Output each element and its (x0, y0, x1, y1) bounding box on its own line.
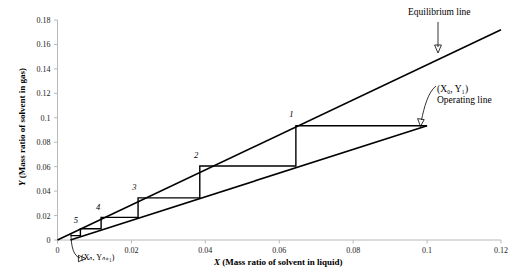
y-tick-label: 0.1 (41, 114, 51, 123)
y-tick-label: 0.06 (37, 163, 51, 172)
annotation-leaders (71, 22, 441, 262)
operating-line-label: Operating line (437, 95, 492, 105)
axes (58, 20, 502, 240)
y-tick-label: 0.08 (37, 138, 51, 147)
stage-number-3: 3 (131, 182, 136, 192)
x-axis-ticks: 00.020.040.060.080.10.12 (56, 240, 509, 255)
y-tick-label: 0.16 (37, 40, 51, 49)
y-axis-title-variable: Y (17, 181, 27, 187)
bottom-coordinate-annotation: (Xₙ, Yₙ₊₁) (81, 253, 114, 262)
stage-number-1: 1 (289, 109, 293, 119)
y-axis-ticks: 00.020.040.060.080.10.120.140.160.18 (37, 16, 58, 245)
x-tick-label: 0.1 (422, 246, 432, 255)
chart-svg: 00.020.040.060.080.10.120.140.160.18 00.… (0, 0, 515, 277)
operating-leader-line (422, 86, 437, 120)
x-tick-label: 0.06 (272, 246, 286, 255)
operating-line-annotation: (X₀, Y₁) Operating line (437, 84, 492, 106)
stage-number-labels: 12345 (74, 109, 294, 225)
x-tick-label: 0.04 (198, 246, 212, 255)
chart-figure: 00.020.040.060.080.10.120.140.160.18 00.… (0, 0, 515, 277)
equilibrium-line-annotation: Equilibrium line (408, 7, 471, 18)
top-coordinate-label: (X₀, Y₁) (437, 84, 492, 95)
y-axis-title-text: (Mass ratio of solvent in gas) (17, 68, 27, 178)
y-tick-label: 0.12 (37, 89, 51, 98)
x-axis-title-text: (Mass ratio of solvent in liquid) (222, 257, 342, 267)
stage-number-4: 4 (96, 202, 101, 212)
y-tick-label: 0 (47, 236, 51, 245)
y-axis-title: Y (Mass ratio of solvent in gas) (17, 47, 27, 207)
y-tick-label: 0.02 (37, 212, 51, 221)
y-tick-label: 0.14 (37, 65, 51, 74)
y-tick-label: 0.04 (37, 187, 51, 196)
chart-series (58, 30, 502, 240)
x-tick-label: 0.02 (124, 246, 138, 255)
x-tick-label: 0 (56, 246, 60, 255)
stage-number-5: 5 (74, 215, 78, 225)
x-tick-label: 0.08 (346, 246, 360, 255)
x-axis-title-variable: X (214, 257, 220, 267)
y-tick-label: 0.18 (37, 16, 51, 25)
stage-number-2: 2 (194, 150, 199, 160)
equilibrium-line (58, 30, 502, 240)
operating-line (70, 126, 427, 240)
x-tick-label: 0.12 (494, 246, 508, 255)
x-axis-title: X (Mass ratio of solvent in liquid) (214, 257, 343, 267)
